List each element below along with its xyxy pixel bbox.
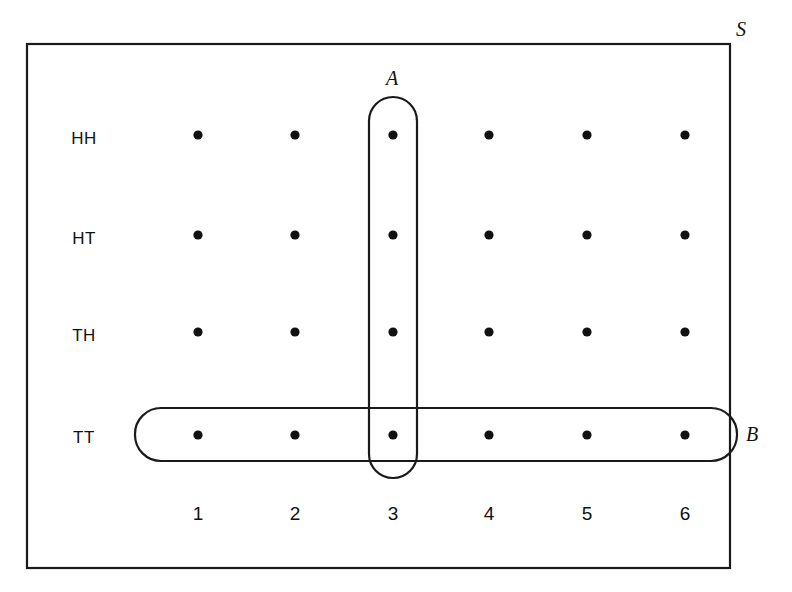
sample-point-dot [582, 130, 591, 139]
sample-point-dot [388, 230, 397, 239]
row-label-th: TH [72, 327, 96, 344]
sample-point-dots [193, 130, 689, 439]
column-label-5: 5 [582, 504, 593, 523]
sample-point-dot [193, 430, 202, 439]
column-label-2: 2 [290, 504, 301, 523]
sample-point-dot [582, 430, 591, 439]
column-label-4: 4 [484, 504, 495, 523]
sample-point-dot [680, 430, 689, 439]
sample-point-dot [193, 327, 202, 336]
sample-point-dot [680, 130, 689, 139]
universe-label-s: S [736, 19, 746, 39]
event-label-a: A [386, 68, 398, 88]
sample-point-dot [290, 327, 299, 336]
sample-space-diagram: HH HT TH TT 1 2 3 4 5 6 S A B [0, 0, 792, 592]
row-label-hh: HH [71, 130, 97, 147]
sample-point-dot [290, 230, 299, 239]
sample-point-dot [388, 327, 397, 336]
event-label-b: B [746, 424, 758, 444]
sample-point-dot [484, 327, 493, 336]
event-a-outline [369, 97, 417, 478]
column-label-1: 1 [193, 504, 204, 523]
sample-point-dot [680, 327, 689, 336]
sample-point-dot [290, 430, 299, 439]
event-b-outline [135, 408, 737, 461]
sample-point-dot [290, 130, 299, 139]
sample-point-dot [388, 430, 397, 439]
sample-point-dot [484, 230, 493, 239]
sample-point-dot [388, 130, 397, 139]
row-label-ht: HT [72, 230, 96, 247]
column-label-3: 3 [388, 504, 399, 523]
row-label-tt: TT [73, 429, 95, 446]
sample-point-dot [484, 130, 493, 139]
sample-point-dot [680, 230, 689, 239]
sample-point-dot [484, 430, 493, 439]
sample-point-dot [193, 130, 202, 139]
sample-point-dot [582, 327, 591, 336]
sample-point-dot [193, 230, 202, 239]
column-label-6: 6 [680, 504, 691, 523]
sample-point-dot [582, 230, 591, 239]
